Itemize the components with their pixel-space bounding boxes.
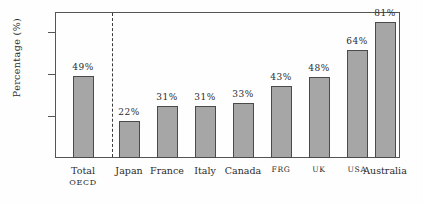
bar-value-total-oecd: 49% <box>60 62 106 72</box>
x-label-total-oecd-sub: OECD <box>46 178 120 187</box>
bar-usa <box>347 50 368 158</box>
bar-value-japan: 22% <box>106 107 152 117</box>
bar-value-australia: 81% <box>362 8 408 18</box>
bar-canada <box>233 103 254 158</box>
x-label-australia: Australia <box>348 165 422 176</box>
group-divider-line <box>112 13 113 157</box>
bar-france <box>157 106 178 158</box>
bar-chart-figure: Percentage (%) 75%50%25%0 49%22%31%31%33… <box>0 0 423 206</box>
y-axis-title: Percentage (%) <box>11 0 22 118</box>
bar-value-uk: 48% <box>296 63 342 73</box>
bar-australia <box>375 22 396 158</box>
bar-japan <box>119 121 140 158</box>
bar-uk <box>309 77 330 158</box>
bar-value-usa: 64% <box>334 36 380 46</box>
bar-frg <box>271 86 292 158</box>
bar-total-oecd <box>73 76 94 158</box>
bar-value-canada: 33% <box>220 89 266 99</box>
bar-italy <box>195 106 216 158</box>
